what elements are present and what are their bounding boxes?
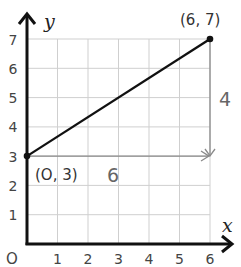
coordinate-graph: y x O 1 2 3 4 5 6 7 1 2 3 4 5 6 (O, 3) (…: [0, 0, 241, 267]
y-tick: 3: [9, 149, 18, 165]
x-tick: 2: [84, 251, 93, 267]
x-tick: 5: [175, 251, 184, 267]
axes: [19, 14, 232, 252]
y-tick: 4: [9, 119, 18, 135]
end-point-label: (6, 7): [180, 11, 220, 29]
y-tick: 5: [9, 90, 18, 106]
point-end: [207, 36, 214, 43]
y-tick: 1: [9, 207, 18, 223]
grid: [27, 39, 210, 244]
point-start: [24, 153, 31, 160]
x-tick: 4: [145, 251, 154, 267]
y-tick-labels: 1 2 3 4 5 6 7: [9, 32, 18, 223]
start-point-label: (O, 3): [35, 166, 78, 184]
y-tick: 7: [9, 32, 18, 48]
rise-label: 4: [219, 88, 231, 110]
origin-label: O: [6, 250, 18, 267]
y-tick: 2: [9, 178, 18, 194]
x-tick: 6: [206, 251, 215, 267]
x-axis-label: x: [222, 214, 233, 236]
x-tick: 3: [114, 251, 123, 267]
y-axis-label: y: [43, 10, 55, 32]
run-label: 6: [107, 164, 119, 186]
x-tick: 1: [53, 251, 62, 267]
y-tick: 6: [9, 61, 18, 77]
x-tick-labels: 1 2 3 4 5 6: [53, 251, 215, 267]
